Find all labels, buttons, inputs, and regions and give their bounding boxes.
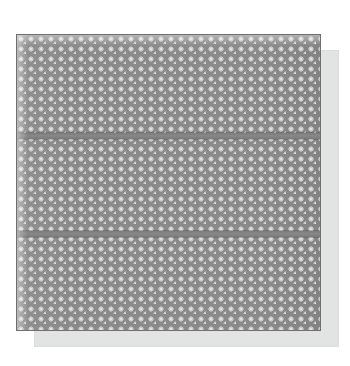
image-canvas: A square perforated metal plate with a s… bbox=[0, 0, 350, 366]
perforated-metal-plate bbox=[16, 34, 321, 331]
reinforcement-rib-lower bbox=[16, 231, 321, 237]
reinforcement-rib-upper bbox=[16, 133, 321, 139]
perforation-hole-field bbox=[16, 34, 321, 331]
